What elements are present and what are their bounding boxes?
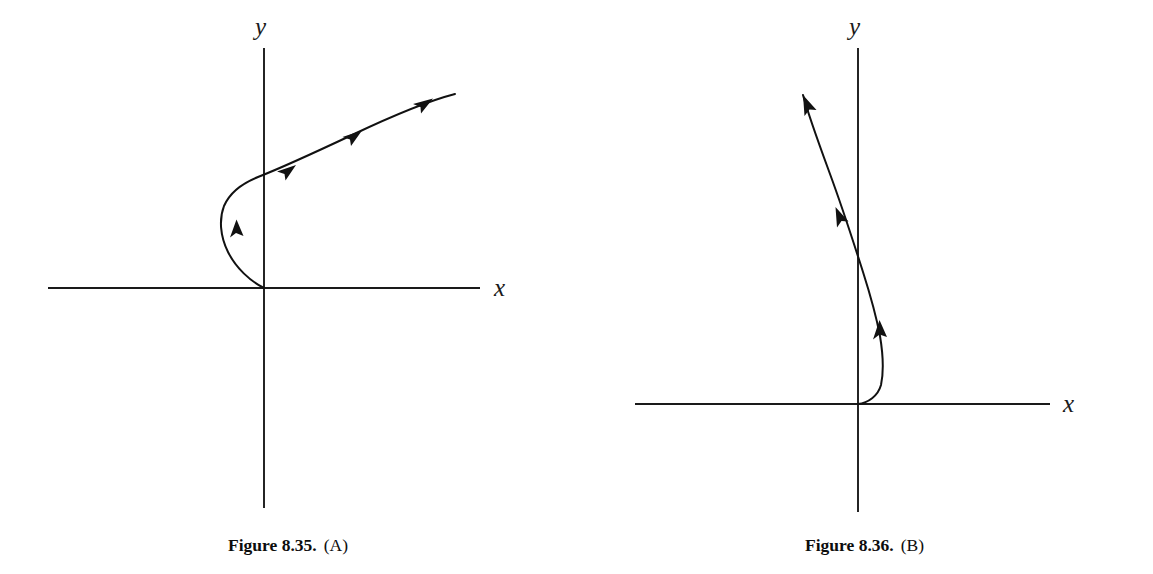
x-axis-label-a: x	[494, 275, 505, 300]
figure-a-caption: Figure 8.35.(A)	[0, 536, 576, 555]
figure-a-caption-tag: (A)	[324, 535, 348, 555]
figure-b-plot	[576, 0, 1153, 520]
figure-b-caption-tag: (B)	[901, 535, 924, 555]
figure-a-plot	[0, 0, 576, 520]
trajectory-arrow-a-1	[230, 220, 244, 238]
figure-b-caption: Figure 8.36.(B)	[576, 536, 1153, 555]
figure-page: x y Figure 8.35.(A) x y Figure 8.36.(B)	[0, 0, 1153, 574]
y-axis-label-b: y	[849, 14, 860, 39]
figure-b-panel: x y Figure 8.36.(B)	[576, 0, 1153, 574]
x-axis-label-b: x	[1063, 391, 1074, 416]
figure-a-caption-title: Figure 8.35.	[228, 535, 317, 555]
figure-a-panel: x y Figure 8.35.(A)	[0, 0, 576, 574]
trajectory-curve-a	[221, 94, 455, 288]
y-axis-label-a: y	[255, 14, 266, 39]
trajectory-curve-b	[803, 95, 883, 404]
trajectory-arrow-b-3	[803, 95, 817, 116]
figure-b-caption-title: Figure 8.36.	[805, 535, 894, 555]
